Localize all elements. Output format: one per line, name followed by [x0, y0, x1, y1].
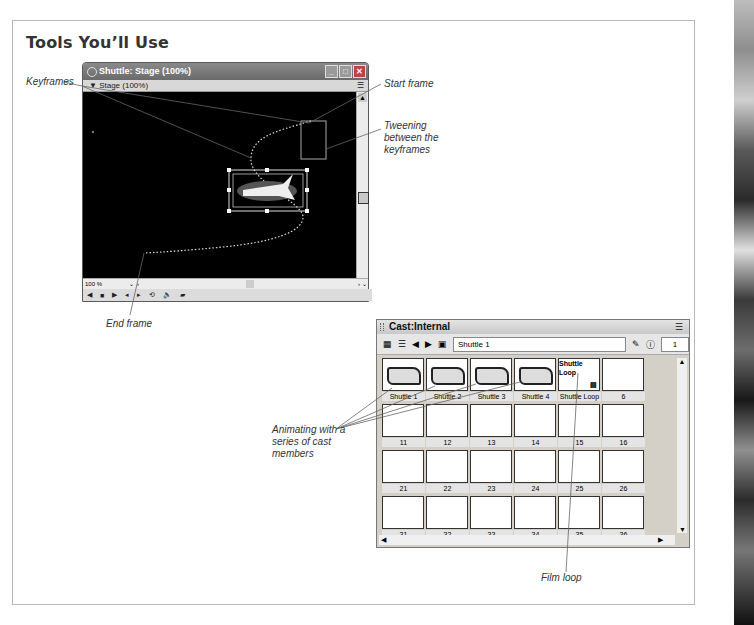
- callout-animating: Animating with a series of cast members: [272, 424, 372, 460]
- callout-film-loop: Film loop: [541, 572, 582, 584]
- callout-keyframes: Keyframes: [26, 76, 74, 88]
- callout-lines: [0, 0, 754, 625]
- callout-end-frame: End frame: [106, 318, 152, 330]
- callout-tweening: Tweening between the keyframes: [384, 120, 464, 156]
- callout-start-frame: Start frame: [384, 78, 433, 90]
